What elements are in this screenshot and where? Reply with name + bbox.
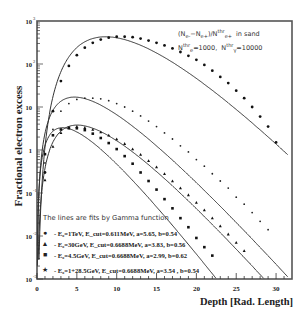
data-point-star bbox=[84, 97, 86, 99]
x-tick-label: 5 bbox=[75, 285, 79, 293]
data-point-circle bbox=[99, 38, 102, 41]
triangle-marker-icon: ▲ bbox=[40, 239, 50, 250]
data-point-triangle bbox=[131, 147, 134, 150]
y-axis-label: Fractional electron excess bbox=[12, 66, 24, 226]
data-point-circle bbox=[211, 69, 214, 72]
data-point-square bbox=[91, 132, 94, 135]
data-point-circle bbox=[275, 141, 278, 144]
data-point-square bbox=[179, 217, 182, 220]
data-point-circle bbox=[83, 46, 86, 49]
data-point-circle bbox=[235, 89, 238, 92]
data-point-star bbox=[203, 165, 205, 167]
data-point-star bbox=[235, 196, 237, 198]
data-point-star bbox=[188, 151, 190, 153]
data-point-triangle bbox=[147, 159, 150, 162]
y-tick-label: 10 bbox=[26, 18, 33, 25]
data-point-circle bbox=[139, 37, 142, 40]
y-tick-exponent: -2 bbox=[33, 231, 37, 236]
data-point-square bbox=[211, 254, 214, 257]
legend-item: ● - E₀=1TeV, E_cut=0.611MeV, a=5.65, b=0… bbox=[40, 228, 199, 239]
data-point-square bbox=[147, 180, 150, 183]
x-tick-label: 15 bbox=[153, 285, 161, 293]
data-point-square bbox=[163, 198, 166, 201]
legend-label: - E₀=1TeV, E_cut=0.611MeV, a=5.65, b=0.5… bbox=[54, 228, 177, 239]
data-point-circle bbox=[91, 41, 94, 44]
data-point-triangle bbox=[179, 187, 182, 190]
square-marker-icon: ■ bbox=[40, 250, 50, 261]
data-point-star bbox=[219, 180, 221, 182]
data-point-circle bbox=[267, 125, 270, 128]
data-point-star bbox=[180, 145, 182, 147]
data-point-circle bbox=[203, 64, 206, 67]
x-tick-label: 30 bbox=[273, 285, 281, 293]
data-point-circle bbox=[163, 44, 166, 47]
x-tick-label: 20 bbox=[193, 285, 201, 293]
data-point-triangle bbox=[163, 172, 166, 175]
legend-label: - E₀=1+28.5GeV, E_cut=0.6688MeV, a=3.54 … bbox=[54, 265, 199, 276]
x-tick-label: 25 bbox=[233, 285, 241, 293]
data-point-circle bbox=[131, 36, 134, 39]
data-point-square bbox=[60, 128, 63, 131]
data-point-circle bbox=[44, 171, 47, 174]
legend-item: ★ - E₀=1+28.5GeV, E_cut=0.6688MeV, a=3.5… bbox=[40, 265, 199, 276]
data-point-circle bbox=[115, 35, 118, 38]
data-point-circle bbox=[107, 36, 110, 39]
data-point-triangle bbox=[187, 193, 190, 196]
data-point-triangle bbox=[155, 166, 158, 169]
data-point-circle bbox=[219, 76, 222, 79]
data-point-star bbox=[108, 100, 110, 102]
data-point-triangle bbox=[115, 137, 118, 140]
data-point-triangle bbox=[123, 142, 126, 145]
data-point-circle bbox=[75, 54, 78, 57]
y-tick-exponent: -1 bbox=[33, 188, 37, 193]
data-point-square bbox=[171, 207, 174, 210]
data-point-star bbox=[148, 120, 150, 122]
x-tick-label: 10 bbox=[113, 285, 121, 293]
fit-note: The lines are fits by Gamma function bbox=[43, 214, 169, 222]
data-point-square bbox=[123, 155, 126, 158]
data-point-star bbox=[116, 103, 118, 105]
data-point-circle bbox=[227, 82, 230, 85]
data-point-star bbox=[211, 173, 213, 175]
y-tick-label: 10 bbox=[26, 190, 33, 197]
y-tick-exponent: 2 bbox=[33, 59, 35, 64]
data-point-star bbox=[259, 220, 261, 222]
data-point-triangle bbox=[243, 249, 246, 252]
x-axis-label: Depth [Rad. Length] bbox=[200, 296, 293, 307]
y-tick-label: 10 bbox=[26, 61, 33, 68]
data-point-star bbox=[267, 229, 269, 231]
data-point-star bbox=[60, 110, 62, 112]
data-point-star bbox=[172, 138, 174, 140]
data-point-circle bbox=[251, 106, 254, 109]
legend-item: ▲ - E₀=30GeV, E_cut=0.6688MeV, a=3.83, b… bbox=[40, 239, 199, 250]
data-point-square bbox=[115, 148, 118, 151]
data-point-star bbox=[52, 129, 54, 131]
data-point-triangle bbox=[235, 241, 238, 244]
data-point-square bbox=[76, 127, 79, 130]
y-tick-label: 10 bbox=[26, 276, 33, 283]
annotation-line-1: (Ne-−Ne+)/Nthre+ in sand bbox=[178, 27, 262, 41]
data-point-circle bbox=[123, 35, 126, 38]
data-point-star bbox=[251, 212, 253, 214]
data-point-triangle bbox=[211, 217, 214, 220]
legend-item: ■ - E₀=4.5GeV, E_cut=0.6688MeV, a=2.99, … bbox=[40, 250, 199, 261]
data-point-circle bbox=[195, 58, 198, 61]
data-point-star bbox=[68, 103, 70, 105]
y-tick-label: 10 bbox=[26, 104, 33, 111]
data-point-star bbox=[243, 203, 245, 205]
data-point-square bbox=[99, 137, 102, 140]
data-point-star bbox=[227, 187, 229, 189]
x-tick-label: 0 bbox=[35, 285, 39, 293]
annotation: (Ne-−Ne+)/Nthre+ in sand Nthre=1000, Nth… bbox=[178, 27, 262, 56]
data-point-square bbox=[131, 162, 134, 165]
data-point-triangle bbox=[43, 178, 46, 181]
data-point-triangle bbox=[195, 201, 198, 204]
data-point-circle bbox=[67, 65, 70, 68]
data-point-circle bbox=[155, 41, 158, 44]
legend-label: - E₀=4.5GeV, E_cut=0.6688MeV, a=2.99, b=… bbox=[54, 250, 187, 261]
data-point-star bbox=[100, 98, 102, 100]
data-point-square bbox=[52, 134, 55, 137]
y-tick-label: 1 bbox=[29, 147, 32, 154]
star-marker-icon: ★ bbox=[40, 265, 50, 276]
data-point-circle bbox=[171, 47, 174, 50]
